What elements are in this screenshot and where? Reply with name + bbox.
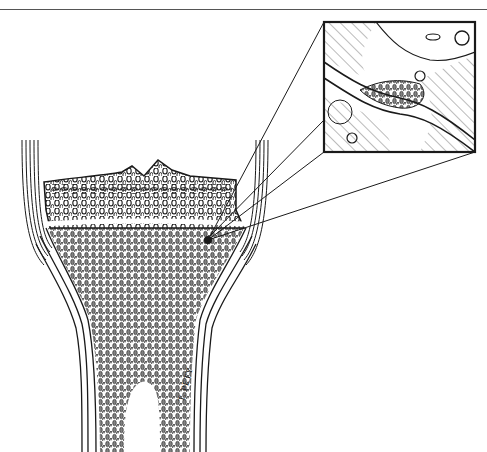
magnified-inset: [324, 22, 475, 152]
bone-illustration: [0, 0, 487, 452]
periosteum-right: [240, 140, 268, 265]
